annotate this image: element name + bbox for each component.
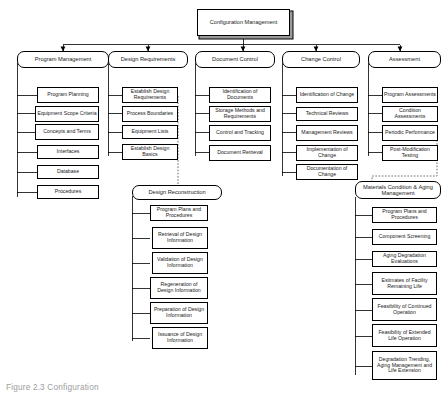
branch-header-program-management[interactable]: Program Management (17, 51, 109, 68)
leaf-label: Retrieval of Design Information (154, 232, 206, 243)
branch-header-label: Change Control (284, 56, 358, 62)
leaf-retrieval-of-design-information[interactable]: Retrieval of Design Information (152, 227, 208, 249)
leaf-concepts-and-terms[interactable]: Concepts and Terms (35, 124, 99, 140)
leaf-aging-degradation-evaluations[interactable]: Aging Degradation Evaluations (372, 251, 437, 267)
leaf-identification-of-change[interactable]: Identification of Change (296, 87, 358, 103)
leaf-label: Procedures (39, 189, 97, 195)
leaf-validation-of-design-information[interactable]: Validation of Design Information (152, 252, 208, 274)
leaf-preparation-of-design-information[interactable]: Preparation of Design Information (150, 302, 208, 324)
leaf-label: Condition Assessments (384, 108, 436, 119)
leaf-label: Establish Design Requirements (124, 89, 176, 100)
leaf-label: Equipment Scope Criteria (37, 111, 97, 117)
leaf-label: Post-Modification Testing (384, 147, 436, 158)
leaf-label: Program Plans and Procedures (374, 209, 435, 220)
leaf-procedures[interactable]: Procedures (37, 185, 99, 199)
leaf-feasibility-of-extended-life-operation[interactable]: Feasibility of Extended Life Operation (372, 324, 437, 347)
leaf-degradation-trending-aging-management-life-extension[interactable]: Degradation Trending, Aging Management a… (372, 351, 437, 380)
leaf-implementation-of-change[interactable]: Implementation of Change (296, 145, 358, 161)
leaf-label: Establish Design Basics (124, 146, 176, 157)
leaf-label: Estimates of Facility Remaining Life (374, 278, 435, 289)
branch-header-design-reconstruction[interactable]: Design Reconstruction (132, 185, 222, 200)
root-node-configuration-management[interactable]: Configuration Management (197, 9, 290, 36)
leaf-storage-methods-and-requirements[interactable]: Storage Methods and Requirements (209, 106, 271, 122)
leaf-periodic-performance[interactable]: Periodic Performance (382, 125, 438, 141)
configuration-management-diagram: Configuration Management Program Managem… (0, 0, 447, 397)
leaf-label: Concepts and Terms (37, 129, 97, 135)
leaf-program-planning[interactable]: Program Planning (37, 87, 99, 103)
root-node-label: Configuration Management (199, 19, 288, 25)
leaf-condition-assessments[interactable]: Condition Assessments (382, 106, 438, 122)
figure-caption: Figure 2.3 Configuration (6, 383, 226, 397)
leaf-feasibility-of-continued-operation[interactable]: Feasibility of Continued Operation (372, 298, 437, 321)
leaf-equipment-lists[interactable]: Equipment Lists (122, 125, 178, 139)
branch-header-label: Design Reconstruction (134, 189, 220, 195)
leaf-equipment-scope-criteria[interactable]: Equipment Scope Criteria (35, 106, 99, 122)
branch-header-label: Materials Condition & Aging Management (357, 184, 439, 196)
leaf-label: Degradation Trending, Aging Management a… (374, 357, 435, 374)
leaf-regeneration-of-design-information[interactable]: Regeneration of Design Information (150, 277, 208, 299)
leaf-label: Periodic Performance (384, 130, 436, 136)
leaf-label: Identification of Change (298, 92, 356, 98)
branch-header-change-control[interactable]: Change Control (282, 51, 360, 68)
leaf-control-and-tracking[interactable]: Control and Tracking (209, 125, 271, 141)
leaf-label: Preparation of Design Information (152, 307, 206, 318)
leaf-document-retrieval[interactable]: Document Retrieval (209, 145, 271, 161)
leaf-program-assessments[interactable]: Program Assessments (382, 87, 438, 103)
leaf-label: Management Reviews (298, 130, 356, 136)
leaf-label: Aging Degradation Evaluations (374, 253, 435, 264)
leaf-interfaces[interactable]: Interfaces (37, 145, 99, 159)
leaf-label: Issuance of Design Information (154, 332, 206, 343)
branch-header-label: Design Requirements (110, 56, 186, 62)
branch-header-materials-condition-aging-management[interactable]: Materials Condition & Aging Management (355, 181, 441, 199)
leaf-label: Technical Reviews (298, 111, 356, 117)
leaf-label: Feasibility of Extended Life Operation (374, 330, 435, 341)
leaf-label: Component Screening (374, 234, 435, 240)
leaf-technical-reviews[interactable]: Technical Reviews (296, 107, 358, 121)
leaf-establish-design-basics[interactable]: Establish Design Basics (122, 144, 178, 160)
leaf-issuance-of-design-information[interactable]: Issuance of Design Information (152, 327, 208, 349)
branch-header-label: Document Control (197, 56, 273, 62)
leaf-component-screening[interactable]: Component Screening (372, 229, 437, 245)
leaf-label: Database (39, 169, 97, 175)
leaf-label: Validation of Design Information (154, 257, 206, 268)
leaf-estimates-of-facility-remaining-life[interactable]: Estimates of Facility Remaining Life (372, 272, 437, 295)
leaf-establish-design-requirements[interactable]: Establish Design Requirements (122, 87, 178, 103)
leaf-label: Feasibility of Continued Operation (374, 304, 435, 315)
leaf-label: Storage Methods and Requirements (211, 108, 269, 119)
leaf-management-reviews[interactable]: Management Reviews (296, 125, 358, 141)
leaf-label: Control and Tracking (211, 130, 269, 136)
leaf-identification-of-documents[interactable]: Identification of Documents (209, 87, 271, 103)
leaf-label: Process Boundaries (124, 111, 176, 117)
leaf-label: Documentation of Change (298, 166, 356, 177)
leaf-label: Regeneration of Design Information (152, 282, 206, 293)
leaf-label: Program Planning (39, 92, 97, 98)
leaf-process-boundaries[interactable]: Process Boundaries (122, 106, 178, 122)
branch-header-design-requirements[interactable]: Design Requirements (108, 51, 188, 68)
leaf-post-modification-testing[interactable]: Post-Modification Testing (382, 145, 438, 161)
branch-header-label: Program Management (19, 56, 107, 62)
leaf-label: Equipment Lists (124, 129, 176, 135)
leaf-label: Document Retrieval (211, 150, 269, 156)
leaf-label: Program Assessments (384, 92, 436, 98)
branch-header-assessment[interactable]: Assessment (368, 51, 441, 68)
leaf-label: Program Plans and Procedures (152, 207, 206, 218)
leaf-label: Identification of Documents (211, 89, 269, 100)
branch-header-document-control[interactable]: Document Control (195, 51, 275, 68)
leaf-label: Implementation of Change (298, 147, 356, 158)
leaf-documentation-of-change[interactable]: Documentation of Change (296, 164, 358, 180)
leaf-program-plans-and-procedures-dr[interactable]: Program Plans and Procedures (150, 205, 208, 221)
branch-header-label: Assessment (370, 56, 439, 62)
leaf-database[interactable]: Database (37, 165, 99, 179)
leaf-label: Interfaces (39, 149, 97, 155)
leaf-program-plans-and-procedures-mc[interactable]: Program Plans and Procedures (372, 207, 437, 223)
